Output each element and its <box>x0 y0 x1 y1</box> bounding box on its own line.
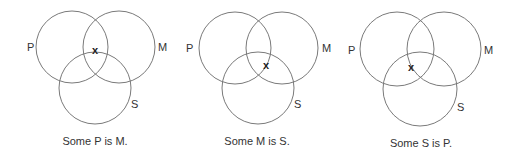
label-p: P <box>27 41 34 53</box>
circle-p <box>360 12 434 86</box>
venn-diagram-some-s-is-p: P M S x Some S is P. <box>348 12 493 149</box>
syllogism-venn-diagrams: P M S x Some P is M. P M S x Some M is S… <box>0 0 515 153</box>
label-s: S <box>294 98 301 110</box>
venn-diagram-some-p-is-m: P M S x Some P is M. <box>27 11 167 147</box>
circle-m <box>407 12 481 86</box>
circle-s <box>383 52 457 126</box>
label-p: P <box>348 44 355 56</box>
existence-mark: x <box>263 59 270 71</box>
caption: Some S is P. <box>390 137 452 149</box>
label-m: M <box>484 44 493 56</box>
label-s: S <box>131 98 138 110</box>
existence-mark: x <box>92 44 99 56</box>
label-s: S <box>457 101 464 113</box>
label-p: P <box>186 42 193 54</box>
label-m: M <box>158 41 167 53</box>
caption: Some M is S. <box>224 135 289 147</box>
existence-mark: x <box>408 61 415 73</box>
caption: Some P is M. <box>62 135 127 147</box>
circle-s <box>59 52 131 124</box>
circle-p <box>199 12 271 84</box>
circle-s <box>222 52 294 124</box>
venn-diagram-some-m-is-s: P M S x Some M is S. <box>186 12 331 147</box>
label-m: M <box>322 42 331 54</box>
circle-m <box>246 12 318 84</box>
